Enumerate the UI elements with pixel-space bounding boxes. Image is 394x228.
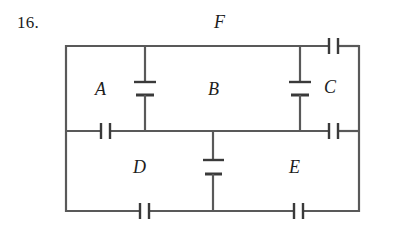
- right-branch-group: [289, 46, 311, 131]
- center-branch-group: [203, 131, 224, 211]
- region-label-b: B: [208, 80, 219, 98]
- left-branch-group: [134, 46, 156, 131]
- region-label-c: C: [324, 78, 336, 96]
- region-label-d: D: [133, 158, 146, 176]
- region-label-f: F: [214, 13, 225, 31]
- region-label-e: E: [289, 158, 300, 176]
- figure-canvas: 16.: [0, 0, 394, 228]
- circuit-diagram: [0, 0, 394, 228]
- region-label-a: A: [95, 80, 106, 98]
- capacitors-group: [101, 38, 338, 219]
